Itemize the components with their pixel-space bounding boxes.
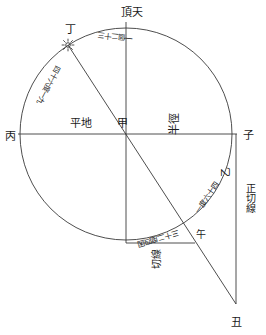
label-sun-point-ding: 丁 <box>65 24 76 36</box>
label-bottom-tangent: 切線 <box>152 249 163 269</box>
label-left-bing: 丙 <box>5 131 16 143</box>
label-arc-point-yi: 乙 <box>221 167 232 177</box>
label-vertical-tangent: 正切線 <box>244 183 255 213</box>
label-radius: 半徑 <box>169 113 181 135</box>
label-center-jia: 甲 <box>117 118 128 130</box>
label-tangent-end-chou: 丑 <box>231 317 242 329</box>
label-arc-point-wu: 午 <box>196 230 206 241</box>
sun-icon <box>62 39 75 52</box>
label-level-ground: 平地 <box>70 118 92 130</box>
label-zenith-top: 頂天 <box>121 7 143 19</box>
label-right-zi: 子 <box>243 130 254 142</box>
diagram-canvas: 頂天 甲 丙 子 丁 乙 午 丑 平地 半徑 正切線 切線 一個二十三 四十六度… <box>0 0 266 335</box>
